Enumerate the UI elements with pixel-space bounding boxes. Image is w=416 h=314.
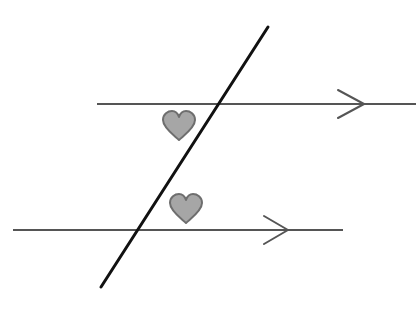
diagram-canvas [0,0,416,314]
bottom-parallel-line [13,216,343,244]
heart-icon [170,194,202,223]
top-parallel-line [97,90,416,118]
transversal-line [101,27,268,287]
heart-icon [163,111,195,140]
parallel-lines-diagram [0,0,416,314]
